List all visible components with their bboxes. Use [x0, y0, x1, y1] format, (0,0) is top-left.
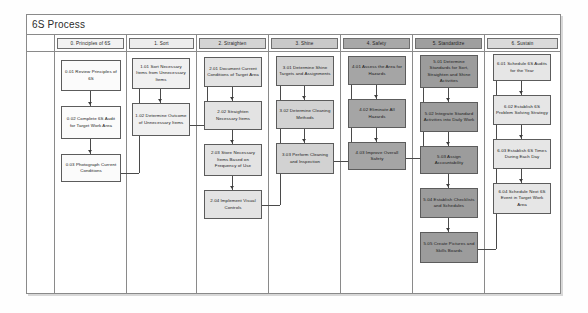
lane-header-sustain: 6. Sustain	[487, 38, 558, 49]
node-3-02[interactable]: 3.02 Determine Cleaning Methods	[276, 100, 334, 129]
lane-standardize[interactable]: 5. Standardize 5.01 Determine Standards …	[413, 35, 485, 294]
lane-header-safety: 4. Safety	[343, 38, 410, 49]
arrow-2-02-to-2-03	[230, 140, 234, 143]
node-3-03[interactable]: 3.03 Perform Cleaning and Inspection	[276, 143, 334, 174]
node-1-02[interactable]: 1.02 Determine Outcome of Unnecessary It…	[132, 103, 190, 136]
arrow-5-03-to-5-04	[446, 184, 450, 187]
node-5-02[interactable]: 5.02 Integrate Standard Activities into …	[420, 102, 478, 132]
lane-header-principles: 0. Principles of 6S	[57, 38, 124, 49]
lane-header-shine: 3. Shine	[271, 38, 338, 49]
spine-lane	[27, 35, 55, 294]
lane-sustain[interactable]: 6. Sustain 6.01 Schedule 6S Audits for t…	[485, 35, 560, 294]
process-frame: 6S Process 0. Principles of 6S 0.01 Revi…	[26, 14, 561, 294]
arrow-5-02-to-5-03	[446, 142, 450, 145]
lane-header-standardize: 5. Standardize	[415, 38, 482, 49]
node-2-01[interactable]: 2.01 Document Current Conditions of Targ…	[204, 57, 262, 87]
node-5-01[interactable]: 5.01 Determine Standards for Sort, Strai…	[420, 55, 478, 88]
diagram-canvas: 6S Process 0. Principles of 6S 0.01 Revi…	[0, 0, 588, 313]
node-2-03[interactable]: 2.03 Store Necessary Items Based on Freq…	[204, 144, 262, 176]
title-bar: 6S Process	[27, 15, 560, 35]
node-4-02[interactable]: 4.02 Eliminate All Hazards	[348, 99, 406, 128]
lane-safety[interactable]: 4. Safety 4.01 Assess the Area for Hazar…	[341, 35, 413, 294]
arrow-6-02-to-6-03	[519, 135, 523, 138]
arrow-2-01-to-2-02	[230, 97, 234, 100]
node-0-01[interactable]: 0.01 Review Principles of 6S	[61, 60, 121, 91]
arrow-6-03-to-6-04	[519, 179, 523, 182]
arrow-5-01-to-5-02	[446, 98, 450, 101]
node-6-02[interactable]: 6.02 Establish 6S Problem Solving Strate…	[493, 95, 551, 125]
arrow-3-01-to-3-02	[302, 96, 306, 99]
node-2-04[interactable]: 2.04 Implement Visual Controls	[204, 190, 262, 219]
node-2-02[interactable]: 2.02 Straighten Necessary Items	[204, 101, 262, 130]
arrow-6-01-to-6-02	[519, 91, 523, 94]
node-5-03[interactable]: 5.03 Assign Accountability	[420, 146, 478, 174]
node-5-04[interactable]: 5.04 Establish Checklists and Schedules	[420, 188, 478, 218]
arrow-4-01-to-4-02	[374, 95, 378, 98]
node-0-03[interactable]: 0.03 Photograph Current Conditions	[61, 154, 121, 182]
page-title: 6S Process	[27, 19, 85, 30]
lane-header-straighten: 2. Straighten	[199, 38, 266, 49]
node-6-03[interactable]: 6.03 Establish 6S Times During Each Day	[493, 139, 551, 169]
node-6-04[interactable]: 6.04 Schedule Next 6S Event in Target Wo…	[493, 183, 551, 214]
arrow-4-02-to-4-03	[374, 138, 378, 141]
lane-principles[interactable]: 0. Principles of 6S 0.01 Review Principl…	[55, 35, 127, 294]
node-3-01[interactable]: 3.01 Determine Shine Targets and Assignm…	[276, 56, 334, 86]
arrow-2-03-to-2-04	[230, 186, 234, 189]
arrow-1-01-to-1-02	[158, 99, 162, 102]
node-5-05[interactable]: 5.05 Create Pictures and Skills Boards	[420, 232, 478, 263]
node-0-02[interactable]: 0.02 Complete 6S Audit for Target Work A…	[61, 106, 121, 139]
arrow-0-02-to-0-03	[88, 150, 92, 153]
lane-shine[interactable]: 3. Shine 3.01 Determine Shine Targets an…	[269, 35, 341, 294]
lane-header-sort: 1. Sort	[129, 38, 194, 49]
swimlane-container: 0. Principles of 6S 0.01 Review Principl…	[27, 35, 560, 294]
arrow-5-04-to-5-05	[446, 228, 450, 231]
arrow-0-01-to-0-02	[88, 102, 92, 105]
lane-straighten[interactable]: 2. Straighten 2.01 Document Current Cond…	[197, 35, 269, 294]
lane-sort[interactable]: 1. Sort 1.01 Sort Necessary Items from U…	[127, 35, 197, 294]
arrow-3-02-to-3-03	[302, 139, 306, 142]
node-4-03[interactable]: 4.03 Improve Overall Safety	[348, 142, 406, 170]
node-6-01[interactable]: 6.01 Schedule 6S Audits for the Year	[493, 54, 551, 81]
node-4-01[interactable]: 4.01 Assess the Area for Hazards	[348, 56, 406, 85]
node-1-01[interactable]: 1.01 Sort Necessary Items from Unnecessa…	[132, 58, 190, 89]
